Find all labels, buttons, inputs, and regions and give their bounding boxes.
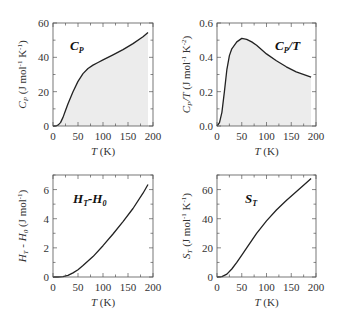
y-tick-label: 2 (44, 242, 50, 254)
y-tick-label: 60 (202, 184, 214, 196)
y-tick-label: 40 (202, 213, 214, 225)
x-tick-label: 200 (145, 130, 162, 142)
x-tick-label: 0 (214, 130, 220, 142)
figure: 0501001502000204060T (K)CP (J mol-1 K-1)… (0, 0, 344, 333)
x-tick-label: 50 (73, 130, 85, 142)
y-tick-label: 0 (208, 271, 214, 283)
chart-entropy: 0501001502000204060T (K)ST (J mol-1 K-1)… (180, 175, 325, 309)
y-tick-label: 0.2 (199, 86, 213, 98)
area-fill (53, 32, 148, 126)
y-tick-label: 60 (38, 17, 50, 29)
y-axis-label: CP/T (J mol-1 K-2) (180, 35, 194, 113)
x-tick-label: 50 (73, 281, 85, 293)
y-tick-label: 0 (44, 120, 50, 132)
y-axis-label: CP (J mol-1 K-1) (16, 40, 30, 109)
x-tick-label: 100 (258, 130, 275, 142)
y-axis-label: HT - H0 (J mol-1) (16, 189, 30, 263)
x-tick-label: 150 (283, 281, 300, 293)
x-tick-label: 0 (50, 130, 56, 142)
x-tick-label: 200 (308, 281, 325, 293)
panel-label: HT-H0 (72, 191, 106, 208)
x-tick-label: 150 (120, 130, 137, 142)
x-tick-label: 50 (236, 130, 248, 142)
plot-frame (53, 175, 153, 277)
x-tick-label: 100 (258, 281, 275, 293)
x-tick-label: 200 (308, 130, 325, 142)
x-axis-label: T (K) (91, 296, 115, 309)
y-tick-label: 0 (44, 271, 50, 283)
panel-label: CP (70, 38, 84, 55)
y-tick-label: 20 (38, 86, 50, 98)
chart-cp: 0501001502000204060T (K)CP (J mol-1 K-1)… (16, 17, 162, 158)
y-axis-label: ST (J mol-1 K-1) (180, 193, 194, 259)
x-tick-label: 50 (236, 281, 248, 293)
chart-cp-over-t: 0501001502000.00.20.40.6T (K)CP/T (J mol… (180, 17, 325, 158)
x-tick-label: 100 (95, 281, 112, 293)
data-curve (217, 179, 311, 277)
y-tick-label: 0.6 (199, 17, 213, 29)
x-axis-label: T (K) (254, 296, 278, 309)
x-axis-label: T (K) (254, 145, 278, 158)
x-axis-label: T (K) (91, 145, 115, 158)
x-tick-label: 100 (95, 130, 112, 142)
x-tick-label: 0 (50, 281, 56, 293)
plot-frame (217, 175, 316, 277)
x-tick-label: 200 (145, 281, 162, 293)
y-tick-label: 40 (38, 51, 50, 63)
x-tick-label: 150 (120, 281, 137, 293)
x-tick-label: 0 (214, 281, 220, 293)
y-tick-label: 20 (202, 242, 214, 254)
y-tick-label: 4 (44, 213, 50, 225)
panel-label: ST (245, 191, 258, 208)
y-tick-label: 6 (44, 184, 50, 196)
panel-label: CP/T (275, 38, 301, 55)
chart-enthalpy: 0501001502000246T (K)HT - H0 (J mol-1)HT… (16, 175, 162, 309)
x-tick-label: 150 (283, 130, 300, 142)
y-tick-label: 0.4 (199, 51, 213, 63)
y-tick-label: 0.0 (199, 120, 213, 132)
